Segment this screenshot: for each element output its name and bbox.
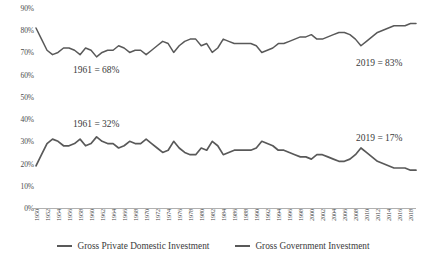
x-axis-tick-2008: 2008 <box>352 209 359 221</box>
x-axis-tick-1990: 1990 <box>253 209 260 221</box>
legend-label-private: Gross Private Domestic Investment <box>77 241 209 251</box>
x-axis-tick-1994: 1994 <box>275 209 282 221</box>
y-axis-tick-30: 30% <box>0 137 34 146</box>
y-axis-tick-70: 70% <box>0 48 34 57</box>
x-axis-tick-1960: 1960 <box>88 209 95 221</box>
y-axis: 0%10%20%30%40%50%60%70%80%90% <box>0 0 34 261</box>
chart-legend: Gross Private Domestic Investment Gross … <box>0 241 427 251</box>
annotation-private-1961: 1961 = 68% <box>73 65 120 75</box>
x-axis-tick-2014: 2014 <box>385 209 392 221</box>
x-axis-tick-2012: 2012 <box>374 209 381 221</box>
x-axis-tick-1954: 1954 <box>55 209 62 221</box>
x-axis-tick-1976: 1976 <box>176 209 183 221</box>
legend-item-private[interactable]: Gross Private Domestic Investment <box>57 241 209 251</box>
y-axis-tick-60: 60% <box>0 70 34 79</box>
x-axis-tick-1980: 1980 <box>198 209 205 221</box>
x-axis-tick-1984: 1984 <box>220 209 227 221</box>
annotation-government-1961: 1961 = 32% <box>73 119 120 129</box>
annotation-government-2019: 2019 = 17% <box>356 133 403 143</box>
x-axis-tick-1998: 1998 <box>297 209 304 221</box>
y-axis-tick-10: 10% <box>0 181 34 190</box>
x-axis-tick-1982: 1982 <box>209 209 216 221</box>
legend-swatch-government <box>235 245 250 247</box>
x-axis-tick-2006: 2006 <box>341 209 348 221</box>
x-axis-tick-2000: 2000 <box>308 209 315 221</box>
x-axis-tick-2010: 2010 <box>363 209 370 221</box>
x-axis-tick-2016: 2016 <box>396 209 403 221</box>
legend-label-government: Gross Government Investment <box>255 241 369 251</box>
x-axis-tick-1972: 1972 <box>154 209 161 221</box>
x-axis-tick-1968: 1968 <box>132 209 139 221</box>
x-axis-tick-1950: 1950 <box>33 209 40 221</box>
line-private-investment <box>36 24 416 57</box>
y-axis-tick-50: 50% <box>0 92 34 101</box>
x-axis-tick-1970: 1970 <box>143 209 150 221</box>
x-axis-tick-1958: 1958 <box>77 209 84 221</box>
legend-swatch-private <box>57 245 72 247</box>
plot-area <box>36 8 416 208</box>
x-axis-tick-1988: 1988 <box>242 209 249 221</box>
y-axis-tick-20: 20% <box>0 159 34 168</box>
y-axis-tick-0: 0% <box>0 204 34 213</box>
x-axis-tick-1956: 1956 <box>66 209 73 221</box>
x-axis-tick-1996: 1996 <box>286 209 293 221</box>
x-axis-tick-2004: 2004 <box>330 209 337 221</box>
x-axis-tick-1978: 1978 <box>187 209 194 221</box>
x-axis-tick-1974: 1974 <box>165 209 172 221</box>
chart-container: 0%10%20%30%40%50%60%70%80%90% 1950195219… <box>0 0 427 261</box>
x-axis-tick-1986: 1986 <box>231 209 238 221</box>
x-axis-tick-2002: 2002 <box>319 209 326 221</box>
series-lines <box>36 8 416 208</box>
legend-item-government[interactable]: Gross Government Investment <box>235 241 369 251</box>
x-axis: 1950195219541956195819601962196419661968… <box>36 209 416 237</box>
y-axis-tick-80: 80% <box>0 26 34 35</box>
annotation-private-2019: 2019 = 83% <box>356 58 403 68</box>
x-axis-tick-1962: 1962 <box>99 209 106 221</box>
x-axis-tick-1964: 1964 <box>110 209 117 221</box>
x-axis-tick-1992: 1992 <box>264 209 271 221</box>
x-axis-tick-1966: 1966 <box>121 209 128 221</box>
x-axis-tick-2018: 2018 <box>407 209 414 221</box>
y-axis-tick-40: 40% <box>0 115 34 124</box>
y-axis-tick-90: 90% <box>0 4 34 13</box>
x-axis-tick-1952: 1952 <box>44 209 51 221</box>
